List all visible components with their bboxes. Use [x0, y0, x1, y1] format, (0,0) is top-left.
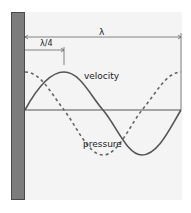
wave-plot	[0, 0, 191, 213]
quarter-wavelength-dimension	[25, 47, 64, 65]
pressure-label: pressure	[83, 140, 122, 149]
standing-wave-diagram: λ λ/4 velocity pressure	[0, 0, 191, 213]
wavelength-label: λ	[99, 28, 104, 37]
quarter-wavelength-label: λ/4	[40, 40, 53, 48]
velocity-label: velocity	[84, 72, 119, 81]
